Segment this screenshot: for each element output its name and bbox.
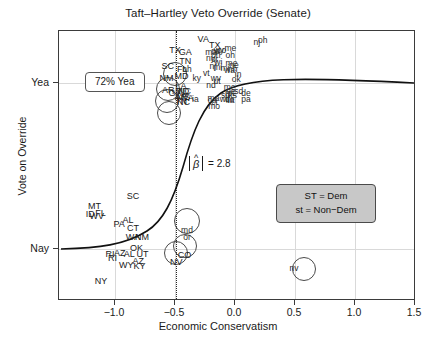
x-axis-label: Economic Conservatism — [0, 320, 436, 332]
y-axis-label: Vote on Override — [16, 86, 28, 226]
data-point-label: WY — [119, 260, 134, 269]
data-point-label: VA — [198, 34, 209, 43]
x-axis-tick — [354, 300, 355, 305]
data-point-label: oh — [258, 35, 267, 44]
data-point-label: NM — [160, 73, 174, 82]
x-axis-tick — [114, 300, 115, 305]
x-tick-label: 0.0 — [227, 306, 242, 318]
y-axis-tick — [53, 82, 58, 83]
data-point-label: mo — [208, 102, 220, 111]
x-axis-tick — [174, 300, 175, 305]
data-point-label: ky — [192, 73, 201, 82]
x-axis-tick — [294, 300, 295, 305]
data-point-label: ia — [192, 94, 199, 103]
data-point-label: nd — [206, 81, 215, 90]
chart-title: Taft–Hartley Veto Override (Senate) — [0, 7, 436, 19]
x-tick-label: 1.5 — [407, 306, 422, 318]
hat-accent: ^ — [194, 153, 198, 163]
data-point-label: NM — [135, 233, 149, 242]
yea-percent-box: 72% Yea — [85, 72, 145, 92]
data-point-label: NC — [177, 98, 190, 107]
y-axis-tick — [53, 248, 58, 249]
x-tick-label: −0.5 — [164, 306, 185, 318]
data-point-label: SC — [127, 192, 140, 201]
data-point-label: KY — [134, 261, 146, 270]
x-tick-label: 0.5 — [287, 306, 302, 318]
x-tick-label: −1.0 — [104, 306, 125, 318]
plot-area: TXSCNMARGATNVAFLMDnhkyLAGAMDNCARMSVATNNC… — [58, 30, 415, 300]
data-point-label: pa — [241, 95, 250, 104]
abs-bar-left — [189, 156, 190, 171]
legend-line-dem: ST = Dem — [279, 189, 373, 203]
chart-figure: Taft–Hartley Veto Override (Senate) TXSC… — [0, 0, 436, 341]
data-point-label: SC — [162, 62, 175, 71]
data-point-label: FL — [95, 208, 106, 217]
data-point-label: NY — [95, 277, 108, 286]
data-point-label: or — [183, 233, 191, 242]
data-point-label: nv — [289, 263, 298, 272]
legend-line-nondem: st = Non−Dem — [279, 203, 373, 217]
data-point-label: ia — [228, 96, 235, 105]
yea-percent-label: 72% Yea — [95, 76, 135, 87]
data-point-label: vt — [203, 69, 210, 78]
beta-equals-value: = 2.8 — [205, 158, 230, 169]
x-axis-tick — [234, 300, 235, 305]
beta-symbol: ^β — [192, 158, 200, 170]
abs-bar-right — [202, 156, 203, 171]
y-tick-label: Nay — [16, 242, 49, 254]
x-tick-label: 1.0 — [347, 306, 362, 318]
data-point-label: nh — [182, 65, 191, 74]
legend-box: ST = Dem st = Non−Dem — [276, 184, 376, 223]
data-point-label: CO — [178, 251, 192, 260]
beta-annotation: ^β = 2.8 — [189, 156, 231, 171]
x-axis-tick — [414, 300, 415, 305]
